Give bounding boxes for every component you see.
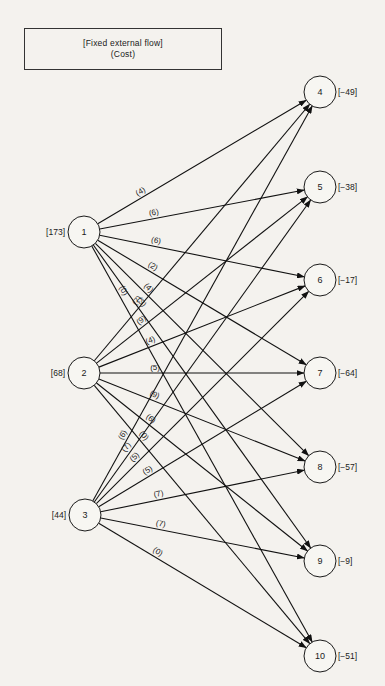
node-9: 9[−9] <box>304 545 352 577</box>
external-flow-label: [−9] <box>338 556 352 566</box>
external-flow-label: [173] <box>46 227 65 237</box>
node-id-label: 7 <box>317 368 322 378</box>
node-id-label: 4 <box>317 87 322 97</box>
external-flow-label: [44] <box>52 510 66 520</box>
node-id-label: 2 <box>81 368 86 378</box>
node-id-label: 9 <box>317 556 322 566</box>
edge-cost-label: (0) <box>138 429 151 443</box>
node-10: 10[−51] <box>304 640 357 672</box>
node-id-label: 8 <box>317 462 322 472</box>
edge-cost-label: (4) <box>142 281 156 295</box>
edge-2-to-9 <box>97 383 308 551</box>
node-id-label: 3 <box>82 510 87 520</box>
edge-cost-label: (6) <box>148 207 160 218</box>
external-flow-label: [−51] <box>338 651 357 661</box>
edge-1-to-8 <box>95 243 308 455</box>
node-id-label: 1 <box>81 227 86 237</box>
edge-cost-label: (7) <box>153 488 165 499</box>
node-3: 3[44] <box>52 499 101 531</box>
node-7: 7[−64] <box>304 357 357 389</box>
edge-3-to-5 <box>94 200 310 502</box>
edge-2-to-5 <box>97 197 308 363</box>
edge-cost-label: (6) <box>150 235 162 246</box>
edge-3-to-10 <box>99 523 307 648</box>
edge-3-to-8 <box>101 470 305 512</box>
node-5: 5[−38] <box>304 171 357 203</box>
edge-cost-label: (5) <box>150 363 160 372</box>
node-id-label: 6 <box>317 275 322 285</box>
edge-cost-label: (7) <box>155 518 167 529</box>
external-flow-label: [−49] <box>338 87 357 97</box>
node-4: 4[−49] <box>304 76 357 108</box>
external-flow-label: [−57] <box>338 462 357 472</box>
nodes-layer: 1[173]2[68]3[44]4[−49]5[−38]6[−17]7[−64]… <box>46 76 357 672</box>
node-1: 1[173] <box>46 216 100 248</box>
external-flow-label: [−64] <box>338 368 357 378</box>
node-id-label: 5 <box>317 182 322 192</box>
external-flow-label: [−38] <box>338 182 357 192</box>
edge-3-to-6 <box>96 291 308 503</box>
external-flow-label: [−17] <box>338 275 357 285</box>
edge-1-to-4 <box>98 100 306 224</box>
edges-layer: (4)(6)(6)(2)(4)(3)(0)(7)(9)(4)(5)(9)(6)(… <box>92 100 312 648</box>
node-2: 2[68] <box>51 357 100 389</box>
transportation-network-diagram: (4)(6)(6)(2)(4)(3)(0)(7)(9)(4)(5)(9)(6)(… <box>0 0 385 686</box>
external-flow-label: [68] <box>51 368 65 378</box>
node-id-label: 10 <box>315 651 325 661</box>
node-6: 6[−17] <box>304 264 357 296</box>
node-8: 8[−57] <box>304 451 357 483</box>
edge-1-to-7 <box>98 240 307 365</box>
edge-cost-label: (9) <box>135 313 149 326</box>
edge-1-to-6 <box>100 235 305 277</box>
